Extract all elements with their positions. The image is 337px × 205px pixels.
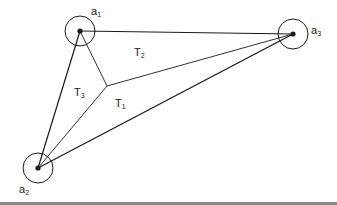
svg-text:T1: T1 <box>115 97 126 110</box>
region-label-T3-sub: 3 <box>81 92 85 99</box>
edge-a1-a2 <box>38 31 80 168</box>
label-a3-sub: 3 <box>317 30 321 37</box>
point-a1 <box>77 28 82 33</box>
edge-a1-interior <box>80 31 107 86</box>
svg-text:a2: a2 <box>19 183 29 196</box>
label-a2-sub: 2 <box>25 189 29 196</box>
svg-text:a1: a1 <box>91 5 101 18</box>
vertex-a1: a1 <box>65 5 101 46</box>
region-label-T2-sub: 2 <box>141 52 145 59</box>
point-a3 <box>290 31 295 36</box>
region-label-T1-sub: 1 <box>122 103 126 110</box>
vertex-a2: a2 <box>19 153 53 196</box>
label-a1-sub: 1 <box>97 11 101 18</box>
edge-a2-interior <box>38 86 107 168</box>
svg-text:T3: T3 <box>74 86 85 99</box>
svg-text:T2: T2 <box>134 46 145 59</box>
edge-a1-a3 <box>80 31 293 34</box>
outer-triangle <box>38 31 293 168</box>
edge-a2-a3 <box>38 34 293 168</box>
point-a2 <box>35 165 40 170</box>
edge-a3-interior <box>107 34 293 86</box>
triangulation-diagram: a1 a3 a2 T2 T3 T1 <box>0 0 337 205</box>
bottom-rule <box>0 202 337 205</box>
svg-text:a3: a3 <box>311 24 321 37</box>
